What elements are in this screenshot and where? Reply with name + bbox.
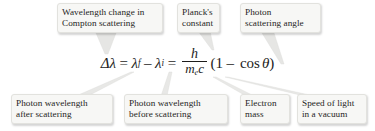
fraction-h-over-mec: h mec	[182, 47, 207, 80]
theta-symbol: θ	[262, 55, 269, 72]
callout-wavelength-change: Wavelength change in Compton scattering	[57, 3, 163, 33]
electron-mass-symbol: m	[185, 61, 194, 76]
callout-plancks-constant: Planck's constant	[177, 3, 220, 33]
delta-lambda-symbol: Δλ	[101, 55, 116, 72]
close-parenthesis: )	[269, 55, 274, 72]
equals-sign-2: =	[164, 55, 179, 72]
equals-sign-1: =	[116, 55, 131, 72]
equation: Δλ = λf – λi = h mec ( 1 – cos θ )	[0, 47, 375, 80]
speed-of-light-symbol: c	[198, 61, 204, 76]
equation-row: Δλ = λf – λi = h mec ( 1 – cos θ )	[101, 47, 275, 80]
callout-photon-wavelength-before: Photon wavelength before scattering	[124, 94, 228, 124]
callout-photon-wavelength-after: Photon wavelength after scattering	[11, 94, 113, 124]
callout-scattering-angle: Photon scattering angle	[240, 3, 321, 33]
compton-scattering-equation-figure: Wavelength change in Compton scattering …	[0, 0, 375, 131]
fraction-numerator-h: h	[188, 47, 201, 61]
callout-speed-of-light: Speed of light in a vacuum	[297, 94, 367, 124]
minus-sign-2: –	[223, 55, 238, 72]
cosine-operator: cos	[237, 55, 262, 72]
number-one: 1	[215, 55, 223, 72]
fraction-denominator: mec	[182, 62, 207, 81]
minus-sign-1: –	[141, 55, 156, 72]
callout-electron-mass: Electron mass	[240, 94, 290, 124]
